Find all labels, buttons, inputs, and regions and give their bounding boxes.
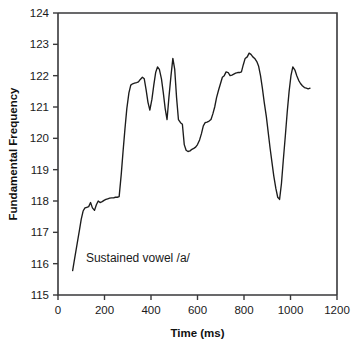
x-tick-label: 200	[95, 304, 114, 316]
chart-container: 115116117118119120121122123124 020040060…	[0, 0, 362, 352]
y-tick-label: 117	[31, 226, 49, 238]
y-tick-label: 122	[30, 70, 49, 82]
fundamental-frequency-line-chart: 115116117118119120121122123124 020040060…	[0, 0, 362, 352]
x-tick-label: 1200	[324, 304, 350, 316]
x-tick-label: 0	[55, 304, 61, 316]
x-tick-label: 800	[234, 304, 253, 316]
y-tick-label: 121	[30, 101, 49, 113]
x-tick-label: 400	[141, 304, 160, 316]
y-tick-label: 123	[30, 38, 49, 50]
y-tick-label: 119	[31, 164, 49, 176]
y-tick-label: 124	[30, 7, 50, 19]
y-tick-label: 116	[31, 258, 49, 270]
x-axis-title: Time (ms)	[170, 327, 224, 339]
annotation-sustained-vowel: Sustained vowel /a/	[86, 251, 191, 265]
y-tick-label: 115	[31, 289, 49, 301]
y-axis-title: Fundamental Frequency	[7, 87, 19, 221]
x-tick-label: 600	[188, 304, 207, 316]
chart-background	[0, 0, 362, 352]
y-tick-label: 118	[31, 195, 49, 207]
x-tick-label: 1000	[278, 304, 304, 316]
y-tick-label: 120	[30, 132, 49, 144]
